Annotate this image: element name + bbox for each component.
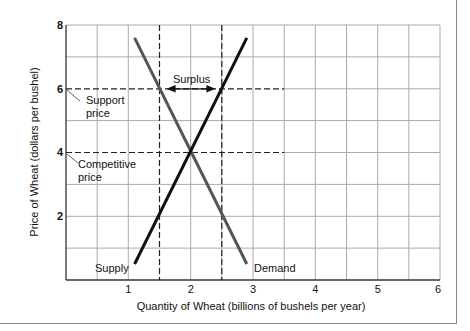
- support-label-2: price: [86, 107, 110, 119]
- surplus-label: Surplus: [173, 73, 211, 85]
- competitive-label-2: price: [78, 171, 102, 183]
- competitive-label: Competitive: [78, 158, 136, 170]
- supply-demand-chart: Surplus Support price Competitive price …: [0, 0, 470, 331]
- x-axis-label: Quantity of Wheat (billions of bushels p…: [137, 300, 366, 312]
- support-leader: [67, 90, 80, 101]
- competitive-leader: [67, 154, 78, 163]
- demand-label: Demand: [254, 262, 296, 274]
- support-label: Support: [86, 94, 125, 106]
- x-tick-1: 1: [125, 283, 131, 295]
- y-tick-8: 8: [57, 19, 63, 31]
- x-tick-4: 4: [312, 283, 318, 295]
- y-tick-6: 6: [57, 83, 63, 95]
- x-tick-3: 3: [250, 283, 256, 295]
- x-tick-2: 2: [188, 283, 194, 295]
- y-axis-label: Price of Wheat (dollars per bushel): [28, 67, 40, 236]
- x-tick-5: 5: [375, 283, 381, 295]
- reference-lines: [66, 25, 284, 280]
- x-tick-6: 6: [435, 283, 441, 295]
- y-tick-2: 2: [57, 210, 63, 222]
- y-tick-4: 4: [57, 146, 64, 158]
- supply-label: Supply: [95, 262, 129, 274]
